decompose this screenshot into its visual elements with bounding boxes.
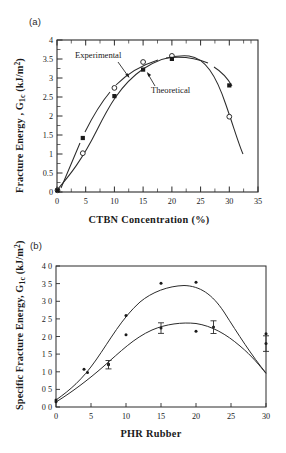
panel-a-experimental-markers <box>55 54 232 193</box>
y-tick-8: 4 0 <box>42 262 52 271</box>
error-bar-15 <box>158 323 164 334</box>
x-tick-7: 35 <box>254 197 262 206</box>
y-tick-7: 3.5 <box>43 55 53 64</box>
y-tick-0: 0 <box>49 188 53 197</box>
panel-a-y-ticklabels: 0 0.5 1 1.5 2 2.5 3 3.5 4 <box>43 36 53 197</box>
x-tick-3: 15 <box>157 412 165 421</box>
y-tick-5: 2 5 <box>42 315 52 324</box>
panel-b-upper-curve <box>56 286 266 401</box>
panel-b-axes <box>56 266 266 407</box>
panel-b-upper-markers <box>55 281 268 402</box>
y-tick-6: 3 <box>49 74 53 83</box>
x-tick-0: 0 <box>54 412 58 421</box>
y-tick-2: 1 <box>49 150 53 159</box>
panel-a-annotation-experimental: Experimental <box>75 50 130 78</box>
panel-b-y-ticklabels: 0 0 0 5 1 0 1 5 2 0 2 5 3 0 3 5 4 0 <box>42 262 52 412</box>
panel-b-lower-curve <box>56 323 266 402</box>
x-tick-5: 25 <box>197 197 205 206</box>
y-tick-3: 1 5 <box>42 350 52 359</box>
y-tick-3: 1.5 <box>43 131 53 140</box>
x-tick-1: 5 <box>89 412 93 421</box>
error-bar-30 <box>263 336 269 352</box>
panel-a-experimental-curve <box>57 56 243 190</box>
panel-b-plot: 0 0 0 5 1 0 1 5 2 0 2 5 3 0 3 5 4 0 <box>0 232 286 453</box>
x-tick-5: 25 <box>227 412 235 421</box>
y-tick-6: 3 0 <box>42 297 52 306</box>
panel-a-plot: 0 0.5 1 1.5 2 2.5 3 3.5 4 <box>0 0 286 232</box>
y-tick-1: 0 5 <box>42 385 52 394</box>
panel-a: (a) Fracture Energy , G1c (kJ/m2) CTBN C… <box>0 0 286 232</box>
panel-b-error-bars <box>106 321 270 369</box>
panel-a-theoretical-curve <box>61 57 232 188</box>
panel-b-x-ticks <box>56 403 266 407</box>
panel-b-y-ticks <box>56 266 60 407</box>
panel-a-y-ticks <box>57 40 63 192</box>
error-bar-7p5 <box>106 361 112 369</box>
x-tick-4: 20 <box>192 412 200 421</box>
x-tick-1: 5 <box>84 197 88 206</box>
x-tick-3: 15 <box>139 197 147 206</box>
figure-container: (a) Fracture Energy , G1c (kJ/m2) CTBN C… <box>0 0 286 453</box>
x-tick-6: 30 <box>225 197 233 206</box>
y-tick-1: 0.5 <box>43 169 53 178</box>
x-tick-2: 10 <box>122 412 130 421</box>
y-tick-0: 0 0 <box>42 403 52 412</box>
x-tick-4: 20 <box>168 197 176 206</box>
y-tick-8: 4 <box>49 36 53 45</box>
y-tick-5: 2.5 <box>43 93 53 102</box>
y-tick-4: 2 <box>49 112 53 121</box>
y-tick-4: 2 0 <box>42 333 52 342</box>
x-tick-6: 30 <box>262 412 270 421</box>
panel-a-theoretical-markers <box>55 57 231 193</box>
y-tick-2: 1 0 <box>42 368 52 377</box>
annotation-experimental-text: Experimental <box>75 50 122 60</box>
panel-a-x-ticklabels: 0 5 10 15 20 25 30 35 <box>55 197 262 206</box>
annotation-theoretical-text: Theoretical <box>151 85 191 95</box>
panel-b: (b) Specific Fracture Energy, G1c (kJ/m2… <box>0 232 286 453</box>
x-tick-2: 10 <box>110 197 118 206</box>
y-tick-7: 3 5 <box>42 280 52 289</box>
panel-b-x-ticklabels: 0 5 10 15 20 25 30 <box>54 412 270 421</box>
error-bar-22p5 <box>211 321 217 334</box>
x-tick-0: 0 <box>55 197 59 206</box>
panel-b-lower-markers <box>55 326 268 404</box>
panel-a-annotation-theoretical: Theoretical <box>147 72 191 95</box>
